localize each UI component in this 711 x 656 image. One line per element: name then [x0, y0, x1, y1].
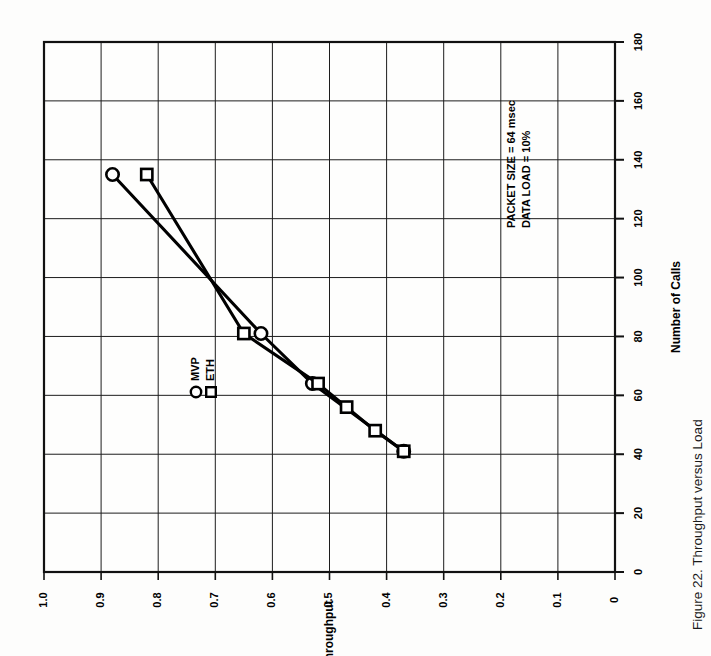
- x-axis-title: Number of Calls: [669, 261, 683, 353]
- y-axis-title: Throughput: [322, 600, 336, 656]
- chart-annotation-line: PACKET SIZE = 64 msec: [505, 100, 517, 228]
- xtick-label-calls: 100: [632, 268, 644, 286]
- xtick-label-calls: 120: [632, 209, 644, 227]
- chart-annotation-line: DATA LOAD = 10%: [520, 130, 532, 228]
- figure-caption-wrap: Figure 22. Throughput versus Load: [690, 630, 711, 645]
- ytick-label-throughput: 0.7: [208, 592, 220, 607]
- xtick-label-calls: 0: [632, 569, 644, 575]
- ytick-label-throughput: 0.6: [265, 592, 277, 607]
- series-eth-point: [312, 378, 323, 389]
- xtick-label-calls: 20: [632, 507, 644, 519]
- ytick-label-throughput: 0.1: [551, 592, 563, 607]
- throughput-versus-load-chart: 020406080100120140160180Number of Calls0…: [0, 0, 711, 656]
- series-mvp-point: [255, 327, 267, 339]
- ytick-label-throughput: 0: [608, 597, 620, 603]
- ytick-label-throughput: 0.4: [380, 591, 392, 607]
- xtick-label-calls: 80: [632, 330, 644, 342]
- series-mvp-point: [106, 168, 118, 180]
- xtick-label-calls: 140: [632, 151, 644, 169]
- ytick-label-throughput: 0.2: [494, 592, 506, 607]
- legend-square-marker-icon: [206, 387, 216, 397]
- series-eth-point: [238, 328, 249, 339]
- series-eth-point: [141, 169, 152, 180]
- figure-caption: Figure 22. Throughput versus Load: [690, 419, 705, 630]
- ytick-label-throughput: 1.0: [37, 592, 49, 607]
- xtick-label-calls: 180: [632, 33, 644, 51]
- series-eth-point: [398, 446, 409, 457]
- ytick-label-throughput: 0.9: [94, 592, 106, 607]
- legend-label: MVP: [189, 357, 201, 381]
- legend-circle-marker-icon: [191, 387, 201, 397]
- legend-label: ETH: [204, 359, 216, 381]
- xtick-label-calls: 60: [632, 389, 644, 401]
- xtick-label-calls: 160: [632, 92, 644, 110]
- series-eth-point: [341, 402, 352, 413]
- ytick-label-throughput: 0.3: [437, 592, 449, 607]
- xtick-label-calls: 40: [632, 448, 644, 460]
- figure-page: 020406080100120140160180Number of Calls0…: [0, 0, 711, 656]
- ytick-label-throughput: 0.8: [151, 592, 163, 607]
- series-eth-point: [370, 425, 381, 436]
